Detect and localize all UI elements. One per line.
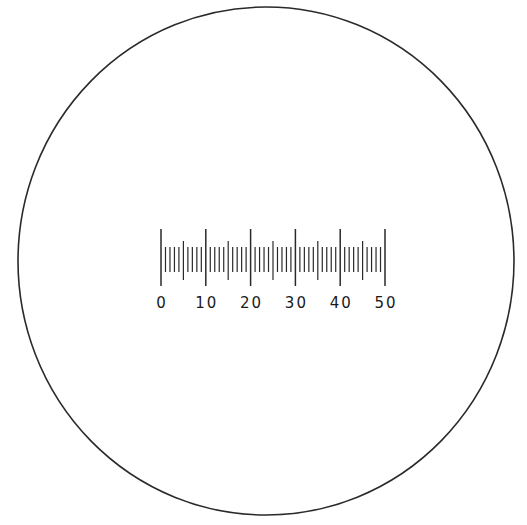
scale-label: 0 (156, 294, 168, 312)
scale-label: 20 (240, 294, 263, 312)
scale-label: 40 (330, 294, 353, 312)
scale-label: 30 (285, 294, 308, 312)
field-of-view-circle (18, 7, 514, 515)
micrometer-scale-labels: 01020304050 (156, 294, 397, 312)
micrometer-scale-ticks (161, 229, 385, 286)
scale-label: 10 (195, 294, 218, 312)
microscope-field-diagram: 01020304050 (0, 0, 527, 525)
scale-label: 50 (374, 294, 397, 312)
